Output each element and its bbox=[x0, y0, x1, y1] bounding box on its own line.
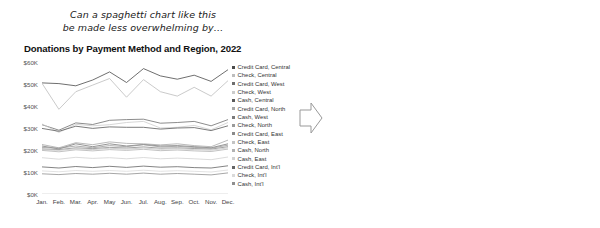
legend-swatch-icon bbox=[232, 157, 235, 160]
legend-item[interactable]: Check, West bbox=[232, 88, 290, 96]
left-panel: Can a spaghetti chart like this be made … bbox=[0, 0, 300, 228]
y-tick-label: $50K bbox=[12, 81, 38, 88]
legend-item[interactable]: Credit Card, North bbox=[232, 105, 290, 113]
legend-item[interactable]: Credit Card, West bbox=[232, 80, 290, 88]
legend-item[interactable]: Credit Card, East bbox=[232, 130, 290, 138]
legend-item-label: Credit Card, Central bbox=[238, 63, 290, 71]
annotation-left: Can a spaghetti chart like this be made … bbox=[58, 8, 228, 34]
line-series bbox=[42, 166, 228, 168]
left-chart-plot[interactable] bbox=[42, 62, 228, 194]
legend-item-label: Credit Card, Int'l bbox=[238, 163, 280, 171]
y-tick-label: $10K bbox=[12, 169, 38, 176]
legend-item[interactable]: Check, Int'l bbox=[232, 171, 290, 179]
legend-item-label: Check, West bbox=[238, 88, 271, 96]
legend-swatch-icon bbox=[232, 107, 235, 110]
legend-swatch-icon bbox=[232, 91, 235, 94]
y-tick-label: $30K bbox=[12, 125, 38, 132]
legend-item[interactable]: Check, East bbox=[232, 138, 290, 146]
legend-item-label: Check, North bbox=[238, 121, 272, 129]
line-series bbox=[42, 173, 228, 175]
legend-item[interactable]: Cash, Central bbox=[232, 96, 290, 104]
right-panel: …adding an interactive filter, like this… bbox=[300, 0, 600, 228]
legend-swatch-icon bbox=[232, 116, 235, 119]
legend-item[interactable]: Check, North bbox=[232, 121, 290, 129]
line-series bbox=[42, 170, 228, 172]
legend-item-label: Credit Card, North bbox=[238, 105, 286, 113]
legend-swatch-icon bbox=[232, 124, 235, 127]
y-tick-label: $60K bbox=[12, 59, 38, 66]
legend-item-label: Cash, East bbox=[238, 155, 267, 163]
legend-swatch-icon bbox=[232, 182, 235, 185]
x-tick-label: Dec. bbox=[218, 198, 238, 205]
legend-swatch-icon bbox=[232, 82, 235, 85]
legend-item[interactable]: Cash, Int'l bbox=[232, 180, 290, 188]
legend-item[interactable]: Cash, East bbox=[232, 155, 290, 163]
legend-item[interactable]: Cash, North bbox=[232, 146, 290, 154]
legend-swatch-icon bbox=[232, 66, 235, 69]
legend-item-label: Credit Card, East bbox=[238, 130, 283, 138]
legend-item[interactable]: Check, Central bbox=[232, 71, 290, 79]
legend-item[interactable]: Cash, West bbox=[232, 113, 290, 121]
legend-swatch-icon bbox=[232, 99, 235, 102]
left-chart-title: Donations by Payment Method and Region, … bbox=[24, 43, 241, 54]
legend-item-label: Check, East bbox=[238, 138, 270, 146]
legend-item-label: Cash, North bbox=[238, 146, 269, 154]
legend-item[interactable]: Credit Card, Int'l bbox=[232, 163, 290, 171]
line-series bbox=[42, 69, 228, 86]
line-series bbox=[42, 79, 228, 110]
y-tick-label: $0K bbox=[12, 191, 38, 198]
legend-item-label: Credit Card, West bbox=[238, 80, 285, 88]
legend-item[interactable]: Credit Card, Central bbox=[232, 63, 290, 71]
line-series bbox=[42, 157, 228, 160]
legend-swatch-icon bbox=[232, 132, 235, 135]
legend-swatch-icon bbox=[232, 166, 235, 169]
legend-swatch-icon bbox=[232, 74, 235, 77]
y-tick-label: $40K bbox=[12, 103, 38, 110]
legend-item-label: Check, Central bbox=[238, 71, 277, 79]
legend-item-label: Check, Int'l bbox=[238, 171, 267, 179]
legend-item-label: Cash, West bbox=[238, 113, 268, 121]
legend-swatch-icon bbox=[232, 149, 235, 152]
left-chart-svg bbox=[42, 62, 228, 194]
legend-item-label: Cash, Central bbox=[238, 96, 274, 104]
y-tick-label: $20K bbox=[12, 147, 38, 154]
left-chart-legend[interactable]: Credit Card, CentralCheck, CentralCredit… bbox=[232, 63, 290, 188]
legend-swatch-icon bbox=[232, 141, 235, 144]
legend-swatch-icon bbox=[232, 174, 235, 177]
legend-item-label: Cash, Int'l bbox=[238, 180, 264, 188]
